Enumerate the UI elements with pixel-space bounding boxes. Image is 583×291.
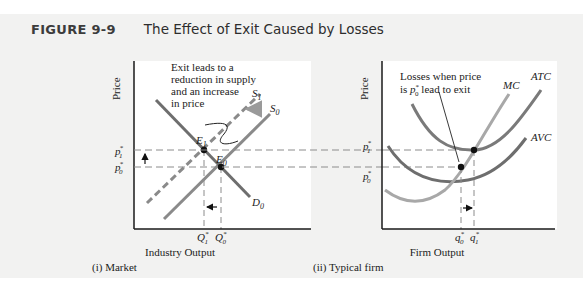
market-tick-q0: Q*0 xyxy=(215,230,227,246)
firm-tick-q0: q*0 xyxy=(455,230,465,246)
firm-tick-q1: q*1 xyxy=(470,230,480,246)
firm-caption: (ii) Typical firm xyxy=(313,261,384,274)
label-avc: AVC xyxy=(530,131,552,143)
label-mc: MC xyxy=(502,79,520,91)
firm-annotation-line1: Losses when price xyxy=(400,70,481,82)
firm-y-axis-label: Price xyxy=(358,77,370,100)
market-tick-q1: Q*1 xyxy=(197,230,209,246)
firm-tick-p1: p*1 xyxy=(362,139,372,155)
firm-tick-p0: p*0 xyxy=(362,169,372,185)
market-y-axis-label: Price xyxy=(110,77,122,100)
firm-point-p1 xyxy=(471,147,477,153)
market-x-axis-label: Industry Output xyxy=(145,246,215,258)
market-tick-p1: p*1 xyxy=(114,144,124,160)
firm-point-p0 xyxy=(458,164,464,170)
label-atc: ATC xyxy=(530,70,551,82)
figure-diagram: Price Exit leads to a reduction in suppl… xyxy=(0,0,583,291)
market-caption: (i) Market xyxy=(92,261,137,274)
market-tick-p0: p*0 xyxy=(114,160,124,176)
firm-x-axis-label: Firm Output xyxy=(410,246,465,258)
